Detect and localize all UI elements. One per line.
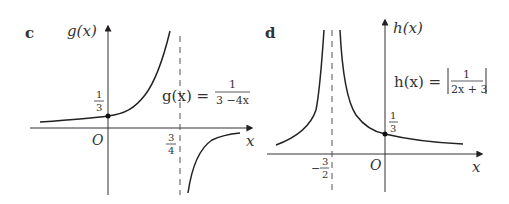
- panel-c: c g(x) 1 3 O 3 4 x g(x) = 1 3 −4x: [25, 22, 255, 195]
- panel-d: d h(x) 1 3 O − 3 2 x h(x) = 1 2x + 3: [265, 19, 487, 194]
- intercept-point-d: [383, 132, 388, 137]
- y-intercept-den-d: 3: [390, 123, 396, 134]
- asymptote-sign-d: −: [311, 162, 320, 175]
- curve-c-left: [40, 31, 170, 122]
- formula-num-d: 1: [463, 68, 470, 81]
- x-axis-label-c: x: [246, 132, 255, 150]
- curve-c-right: [188, 133, 240, 193]
- y-axis-label-c: g(x): [67, 22, 97, 40]
- formula-num-c: 1: [229, 78, 236, 91]
- intercept-point-c: [106, 114, 111, 119]
- panel-label-d: d: [265, 24, 276, 42]
- origin-label-c: O: [92, 132, 104, 148]
- x-axis-label-d: x: [472, 158, 481, 176]
- asymptote-den-c: 4: [168, 145, 174, 156]
- asymptote-num-c: 3: [168, 132, 174, 143]
- asymptote-num-d: 3: [322, 156, 328, 167]
- formula-den-d: 2x + 3: [451, 83, 487, 96]
- y-axis-label-d: h(x): [393, 19, 423, 37]
- origin-label-d: O: [370, 157, 382, 173]
- asymptote-den-d: 2: [322, 169, 328, 180]
- panel-label-c: c: [25, 24, 34, 42]
- formula-den-c: 3 −4x: [216, 94, 250, 107]
- formula-lhs-d: h(x) =: [394, 73, 441, 91]
- formula-lhs-c: g(x) =: [162, 87, 209, 105]
- curve-d-left: [276, 30, 324, 145]
- y-intercept-num-d: 1: [390, 110, 396, 121]
- y-intercept-den-c: 3: [96, 102, 102, 113]
- y-intercept-num-c: 1: [96, 89, 102, 100]
- diagram-canvas: c g(x) 1 3 O 3 4 x g(x) = 1 3 −4x d h(x): [0, 0, 509, 204]
